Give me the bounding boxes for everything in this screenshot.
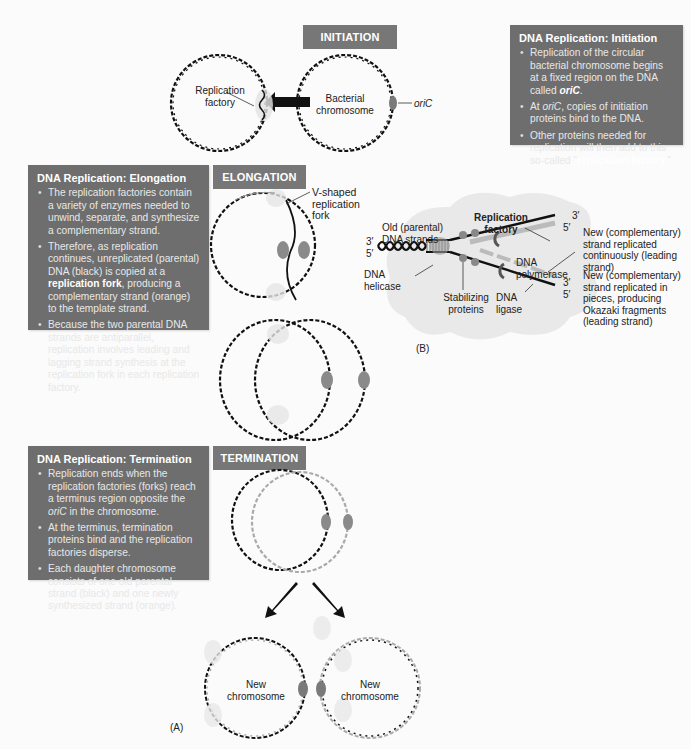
label-bacterial-chromosome: Bacterial chromosome: [314, 93, 376, 116]
fork-helicase: DNA helicase: [364, 269, 404, 292]
fork-end-bot-5: 5′: [563, 289, 570, 301]
fork-leading-label: New (complementary) strand replicated co…: [583, 227, 688, 273]
fork-end-bot-3: 3′: [563, 277, 570, 289]
fork-end-left-3: 3′: [366, 236, 373, 248]
fork-title: Replication factory: [470, 212, 532, 235]
elongation-chromosome-1: [211, 189, 315, 301]
new-chromosome-2: [313, 616, 420, 738]
label-replication-factory: Replication factory: [194, 85, 246, 108]
fork-end-left-5: 5′: [366, 248, 373, 260]
termination-chromosomes: [232, 470, 353, 572]
label-panel-a: (A): [170, 722, 183, 734]
fork-old-strands: Old (parental) DNA strands: [382, 222, 450, 245]
label-new-chromosome-1: New chromosome: [225, 679, 287, 702]
fork-end-top-3: 3′: [572, 210, 579, 222]
label-v-shaped-fork: V-shaped replication fork: [312, 187, 364, 222]
fork-end-top-5: 5′: [563, 222, 570, 234]
arrow-down-right-icon: [312, 582, 345, 618]
arrow-down-left-icon: [265, 582, 298, 618]
oric-marker: [389, 96, 397, 110]
fork-stabilizing: Stabilizing proteins: [438, 292, 494, 315]
elongation-chromosome-2: [220, 320, 370, 440]
fork-lagging-label: New (complementary) strand replicated in…: [583, 270, 691, 328]
label-oric: oriC: [414, 98, 432, 110]
label-panel-b: (B): [416, 343, 429, 355]
fork-ligase: DNA ligase: [496, 292, 532, 315]
label-new-chromosome-2: New chromosome: [339, 679, 401, 702]
